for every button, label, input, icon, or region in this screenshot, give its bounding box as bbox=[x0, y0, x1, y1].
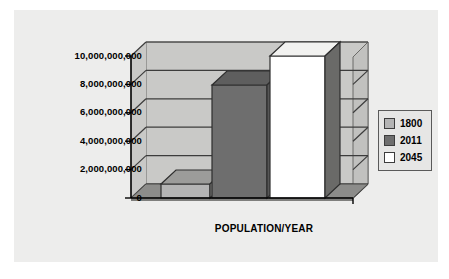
y-axis-labels: 10,000,000,000 8,000,000,000 6,000,000,0… bbox=[14, 10, 142, 262]
y-tick-label-8b: 8,000,000,000 bbox=[34, 79, 142, 89]
legend-swatch-2011 bbox=[384, 135, 395, 146]
legend[interactable]: 1800 2011 2045 bbox=[378, 110, 432, 171]
right-wall bbox=[353, 42, 368, 198]
legend-item-2011[interactable]: 2011 bbox=[384, 132, 427, 149]
bar-1800-front[interactable] bbox=[161, 184, 210, 198]
legend-label-2045: 2045 bbox=[400, 153, 422, 163]
y-tick-label-2b: 2,000,000,000 bbox=[34, 164, 142, 174]
bar-2045-side bbox=[325, 42, 340, 198]
bar-2045-front[interactable] bbox=[270, 56, 325, 198]
legend-swatch-1800 bbox=[384, 118, 395, 129]
y-tick-label-6b: 6,000,000,000 bbox=[34, 107, 142, 117]
y-tick-label-10b: 10,000,000,000 bbox=[34, 51, 142, 61]
legend-item-1800[interactable]: 1800 bbox=[384, 115, 427, 132]
x-axis-title: POPULATION/YEAR bbox=[144, 223, 384, 234]
y-tick-label-4b: 4,000,000,000 bbox=[34, 136, 142, 146]
legend-swatch-2045 bbox=[384, 152, 395, 163]
chart-canvas: 10,000,000,000 8,000,000,000 6,000,000,0… bbox=[14, 10, 438, 262]
chart-screenshot: 10,000,000,000 8,000,000,000 6,000,000,0… bbox=[0, 0, 449, 279]
y-tick-label-0: 0 bbox=[34, 193, 142, 203]
legend-label-2011: 2011 bbox=[400, 136, 422, 146]
legend-label-1800: 1800 bbox=[400, 119, 422, 129]
legend-item-2045[interactable]: 2045 bbox=[384, 149, 427, 166]
bar-2011-front[interactable] bbox=[212, 85, 267, 198]
